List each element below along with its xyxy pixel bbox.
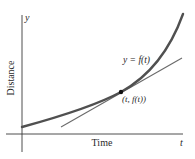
x-axis-var-label: t xyxy=(180,137,183,148)
y-axis-title: Distance xyxy=(5,60,16,96)
distance-time-diagram: y Distance Time t y = f(t) (t, f(t)) xyxy=(0,0,195,159)
curve-f-of-t xyxy=(22,14,183,127)
x-axis-title: Time xyxy=(92,137,113,148)
point-label: (t, f(t)) xyxy=(122,94,146,104)
y-axis-var-label: y xyxy=(24,12,30,23)
curve-label: y = f(t) xyxy=(122,55,150,66)
